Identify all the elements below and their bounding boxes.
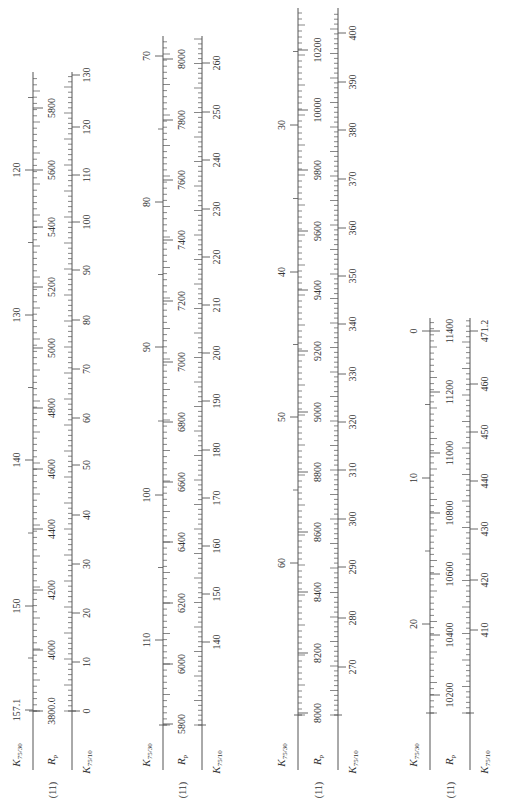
- rp-axis-name: Rp: [311, 754, 325, 766]
- k10-tick-label: 300: [347, 512, 358, 527]
- k10-tick-label: 110: [81, 168, 92, 183]
- k30-tick-label: 90: [141, 342, 152, 352]
- k10-tick-label: 120: [81, 120, 92, 135]
- k10-tick-label: 360: [347, 221, 358, 236]
- k30-axis-name: K75/30: [275, 743, 289, 768]
- rp-tick-label: 7200: [176, 291, 187, 311]
- panel-2: 8000780076007400720070006800660064006200…: [140, 36, 224, 798]
- k30-tick-label: 10: [408, 473, 419, 483]
- rp-axis-name: Rp: [45, 754, 59, 766]
- k10-tick-label: 150: [211, 587, 222, 602]
- panel-4: 1140011200110001080010600104001020001020…: [407, 318, 492, 798]
- rp-tick-label: 5600: [46, 160, 57, 180]
- k10-axis-name: K75/10: [346, 750, 360, 775]
- k30-tick-label: 100: [141, 488, 152, 503]
- k10-tick-label: 380: [347, 123, 358, 138]
- rp-tick-label: 7800: [176, 110, 187, 130]
- rp-tick-label: 7600: [176, 170, 187, 190]
- rp-tick-label: 8400: [312, 582, 323, 602]
- rp-tick-label: 8000: [312, 703, 323, 723]
- rp-axis-name: Rp: [443, 754, 457, 766]
- k10-tick-label: 180: [211, 443, 222, 458]
- k10-tick-label: 240: [211, 153, 222, 168]
- rp-tick-label: 10200: [444, 683, 455, 708]
- rp-tick-label: 9200: [312, 341, 323, 361]
- k30-axis-name: K75/30: [407, 743, 421, 768]
- rp-tick-label: 11000: [444, 441, 455, 466]
- k10-tick-label: 270: [347, 660, 358, 675]
- rp-axis-name: Rp: [175, 754, 189, 766]
- k10-tick-label: 250: [211, 105, 222, 120]
- k10-tick-label: 330: [347, 367, 358, 382]
- k10-axis-name: K75/10: [210, 750, 224, 775]
- rp-tick-label: 10400: [444, 623, 455, 648]
- k30-tick-label: 130: [11, 308, 22, 323]
- rp-tick-label: 6800: [176, 412, 187, 432]
- nomogram: 5800560054005200500048004600440042004000…: [0, 0, 518, 805]
- k10-tick-label: 160: [211, 539, 222, 554]
- k10-tick-label: 350: [347, 269, 358, 284]
- k10-tick-label: 460: [479, 377, 490, 392]
- equation-tag: (11): [445, 782, 457, 798]
- rp-tick-label: 9000: [312, 402, 323, 422]
- rp-tick-label: 7000: [176, 352, 187, 372]
- panel-1: 5800560054005200500048004600440042004000…: [10, 68, 94, 799]
- k30-tick-label: 50: [276, 412, 287, 422]
- rp-tick-label: 5000: [46, 338, 57, 358]
- k10-tick-label: 20: [81, 608, 92, 618]
- rp-tick-label: 5800: [176, 714, 187, 734]
- k10-tick-label: 170: [211, 491, 222, 506]
- k10-tick-label: 140: [211, 635, 222, 650]
- k10-tick-label: 450: [479, 425, 490, 440]
- rp-tick-label: 10000: [312, 98, 323, 123]
- equation-tag: (11): [177, 782, 189, 798]
- rp-tick-label: 5400: [46, 217, 57, 237]
- k10-tick-label: 90: [81, 265, 92, 275]
- rp-tick-label: 9800: [312, 160, 323, 180]
- rp-tick-label: 11400: [444, 319, 455, 344]
- k10-tick-label: 190: [211, 394, 222, 409]
- k30-tick-label: 30: [276, 120, 287, 130]
- equation-tag: (11): [313, 782, 325, 798]
- rp-tick-label: 8800: [312, 462, 323, 482]
- k10-tick-label: 260: [211, 56, 222, 71]
- k10-tick-label: 130: [81, 68, 92, 83]
- k30-tick-label: 150: [11, 599, 22, 614]
- rp-tick-label: 6200: [176, 593, 187, 613]
- rp-tick-label: 8200: [312, 643, 323, 663]
- k10-tick-label: 80: [81, 315, 92, 325]
- k10-tick-label: 370: [347, 172, 358, 187]
- k10-tick-label: 0: [81, 709, 92, 714]
- rp-tick-label: 8000: [176, 49, 187, 69]
- rp-tick-label: 4600: [46, 459, 57, 479]
- k10-tick-label: 320: [347, 415, 358, 430]
- rp-tick-label: 10800: [444, 501, 455, 526]
- rp-tick-label: 10600: [444, 562, 455, 587]
- rp-tick-label: 6600: [176, 472, 187, 492]
- k30-tick-label: 60: [276, 558, 287, 568]
- equation-tag: (11): [47, 782, 59, 798]
- rp-tick-label: 4400: [46, 519, 57, 539]
- k10-tick-label: 420: [479, 573, 490, 588]
- rp-tick-label: 7400: [176, 230, 187, 250]
- rp-tick-label: 6400: [176, 532, 187, 552]
- k10-tick-label: 280: [347, 611, 358, 626]
- rp-tick-label: 9400: [312, 280, 323, 300]
- k10-tick-label: 200: [211, 346, 222, 361]
- k10-tick-label: 40: [81, 510, 92, 520]
- rp-tick-label: 5200: [46, 277, 57, 297]
- k10-tick-label: 220: [211, 250, 222, 265]
- k10-tick-label: 440: [479, 474, 490, 489]
- k10-tick-label: 290: [347, 560, 358, 575]
- rp-tick-label: 6000: [176, 654, 187, 674]
- k10-axis-name: K75/10: [478, 750, 492, 775]
- rp-tick-label: 11200: [444, 380, 455, 405]
- k30-tick-label: 20: [408, 619, 419, 629]
- k30-tick-label: 157.1: [11, 699, 22, 722]
- k30-tick-label: 70: [141, 51, 152, 61]
- k10-tick-label: 210: [211, 298, 222, 313]
- k10-tick-label: 50: [81, 460, 92, 470]
- rp-tick-label: 10200: [312, 38, 323, 63]
- rp-tick-label: 8600: [312, 522, 323, 542]
- rp-tick-label: 4800: [46, 398, 57, 418]
